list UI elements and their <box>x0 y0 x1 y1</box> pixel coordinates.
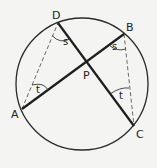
point-label-p: P <box>83 69 90 82</box>
angle-label-s-at-b: s <box>112 41 117 52</box>
angle-label-t-at-a: t <box>36 84 40 95</box>
point-label-a: A <box>11 108 19 121</box>
diagram-canvas: D B A C P s s t t <box>0 0 157 168</box>
point-label-b: B <box>126 21 134 34</box>
angle-label-t-at-c: t <box>119 90 123 101</box>
angle-label-s-at-d: s <box>63 36 68 47</box>
angle-arc-a <box>32 84 48 90</box>
circle-chords-diagram: D B A C P s s t t <box>0 0 157 168</box>
point-label-d: D <box>52 9 60 22</box>
point-label-c: C <box>136 128 144 141</box>
dashed-segment-bc <box>124 34 134 126</box>
